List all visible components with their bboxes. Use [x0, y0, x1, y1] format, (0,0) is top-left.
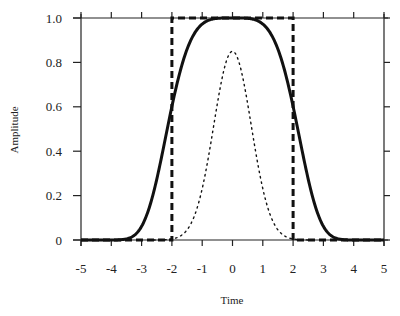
y-tick-label: 0 — [56, 233, 63, 248]
x-tick-label: 0 — [229, 261, 236, 276]
x-tick-label: -5 — [76, 261, 87, 276]
chart: -5-4-3-2-1012345 00.20.40.60.81.0 Amplit… — [0, 0, 400, 316]
x-tick-label: -1 — [197, 261, 208, 276]
plot-frame — [73, 14, 388, 246]
x-axis-label: Time — [221, 294, 244, 306]
y-axis-label: Amplitude — [8, 106, 20, 153]
x-tick-label: -2 — [166, 261, 177, 276]
plot-series — [81, 18, 384, 240]
y-tick-label: 0.8 — [46, 55, 62, 70]
y-tick-label: 0.2 — [46, 188, 62, 203]
x-tick-label: 5 — [381, 261, 388, 276]
x-tick-label: -4 — [106, 261, 117, 276]
y-tick-label: 0.6 — [46, 99, 63, 114]
x-tick-label: 3 — [320, 261, 327, 276]
smooth-window-line — [81, 18, 384, 240]
x-tick-label: 2 — [290, 261, 297, 276]
y-tick-label: 0.4 — [46, 144, 63, 159]
y-tick-label: 1.0 — [46, 11, 62, 26]
x-tick-label: 4 — [350, 261, 357, 276]
x-tick-label: -3 — [136, 261, 147, 276]
y-axis-ticks: 00.20.40.60.81.0 — [46, 11, 390, 248]
x-tick-label: 1 — [260, 261, 267, 276]
rectangular-window-line — [81, 18, 384, 240]
